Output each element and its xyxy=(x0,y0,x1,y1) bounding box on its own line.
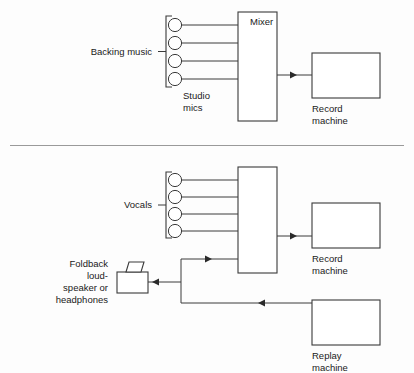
arrow-head-icon xyxy=(290,233,297,240)
label-record-machine-top-line2: machine xyxy=(312,115,348,126)
label-replay-machine-line1: Replay xyxy=(312,350,342,361)
label-record-machine-bottom-line2: machine xyxy=(312,265,348,276)
label-foldback-line4: headphones xyxy=(56,294,109,305)
label-replay-machine-line2: machine xyxy=(312,362,348,373)
microphone-icon xyxy=(168,72,181,85)
mixer-box-bottom xyxy=(238,167,277,273)
panel-bottom-vocal-overdub: Vocals Record machine Replay machine Fol… xyxy=(56,167,380,373)
microphone-icon xyxy=(168,224,181,237)
label-record-machine-top-line1: Record xyxy=(312,103,343,114)
diagram-canvas: Backing music Studio mics Mixer Record m… xyxy=(0,0,414,373)
signal-flow-diagram: Backing music Studio mics Mixer Record m… xyxy=(0,0,414,373)
label-foldback-line3: speaker or xyxy=(63,282,108,293)
arrow-head-icon xyxy=(258,300,265,307)
label-mixer-top: Mixer xyxy=(250,16,273,27)
arrow-head-icon xyxy=(290,72,297,79)
label-record-machine-bottom-line1: Record xyxy=(312,253,343,264)
label-studio-mics-line2: mics xyxy=(183,102,203,113)
label-foldback-line2: loud- xyxy=(87,270,108,281)
mic-array-bottom xyxy=(168,173,238,237)
foldback-loudspeaker-icon xyxy=(117,262,148,293)
label-backing-music: Backing music xyxy=(91,46,152,57)
replay-machine-box xyxy=(312,300,380,345)
microphone-icon xyxy=(168,190,181,203)
arrow-head-icon xyxy=(205,256,212,263)
arrow-head-icon xyxy=(152,279,159,286)
label-studio-mics-line1: Studio xyxy=(183,90,210,101)
microphone-icon xyxy=(168,18,181,31)
loudspeaker-body xyxy=(117,272,148,293)
microphone-icon xyxy=(168,207,181,220)
microphone-icon xyxy=(168,36,181,49)
mic-array-top xyxy=(168,18,238,85)
panel-top-backing-music: Backing music Studio mics Mixer Record m… xyxy=(91,12,380,126)
label-vocals: Vocals xyxy=(124,199,152,210)
loudspeaker-horn xyxy=(126,262,144,272)
microphone-icon xyxy=(168,54,181,67)
label-foldback-line1: Foldback xyxy=(69,258,108,269)
microphone-icon xyxy=(168,173,181,186)
mixer-box-top xyxy=(238,12,277,121)
record-machine-box-top xyxy=(312,53,380,98)
record-machine-box-bottom xyxy=(312,203,380,248)
